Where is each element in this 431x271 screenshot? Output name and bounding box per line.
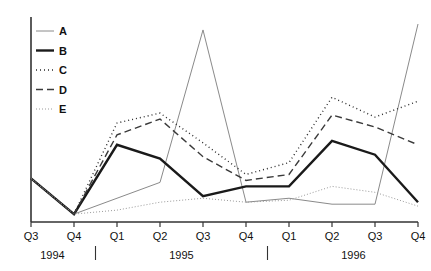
legend-label-c: C — [59, 64, 67, 76]
x-tick-label: Q3 — [196, 230, 211, 242]
x-tick-label: Q4 — [411, 230, 426, 242]
legend-label-a: A — [59, 25, 67, 37]
x-group-year-label: 1994 — [40, 249, 64, 261]
legend-label-e: E — [59, 103, 66, 115]
x-tick-label: Q2 — [153, 230, 168, 242]
chart-legend: ABCDE — [36, 25, 67, 115]
chart-axes — [31, 17, 418, 227]
x-tick-label: Q4 — [67, 230, 82, 242]
x-tick-label: Q4 — [239, 230, 254, 242]
chart-year-labels: 199419951996 — [40, 246, 365, 261]
x-tick-label: Q1 — [110, 230, 125, 242]
x-group-year-label: 1996 — [341, 249, 365, 261]
legend-label-d: D — [59, 84, 67, 96]
chart-svg: Q3Q4Q1Q2Q3Q4Q1Q2Q3Q4 199419951996 ABCDE — [0, 0, 431, 271]
series-line-b — [31, 141, 418, 214]
x-tick-label: Q1 — [282, 230, 297, 242]
x-tick-label: Q3 — [24, 230, 39, 242]
x-tick-label: Q3 — [368, 230, 383, 242]
line-chart: Q3Q4Q1Q2Q3Q4Q1Q2Q3Q4 199419951996 ABCDE — [0, 0, 431, 271]
x-tick-label: Q2 — [325, 230, 340, 242]
chart-tick-labels: Q3Q4Q1Q2Q3Q4Q1Q2Q3Q4 — [24, 230, 426, 242]
series-line-d — [31, 115, 418, 214]
x-group-year-label: 1995 — [169, 249, 193, 261]
chart-series-layer — [31, 24, 418, 214]
legend-label-b: B — [59, 45, 67, 57]
